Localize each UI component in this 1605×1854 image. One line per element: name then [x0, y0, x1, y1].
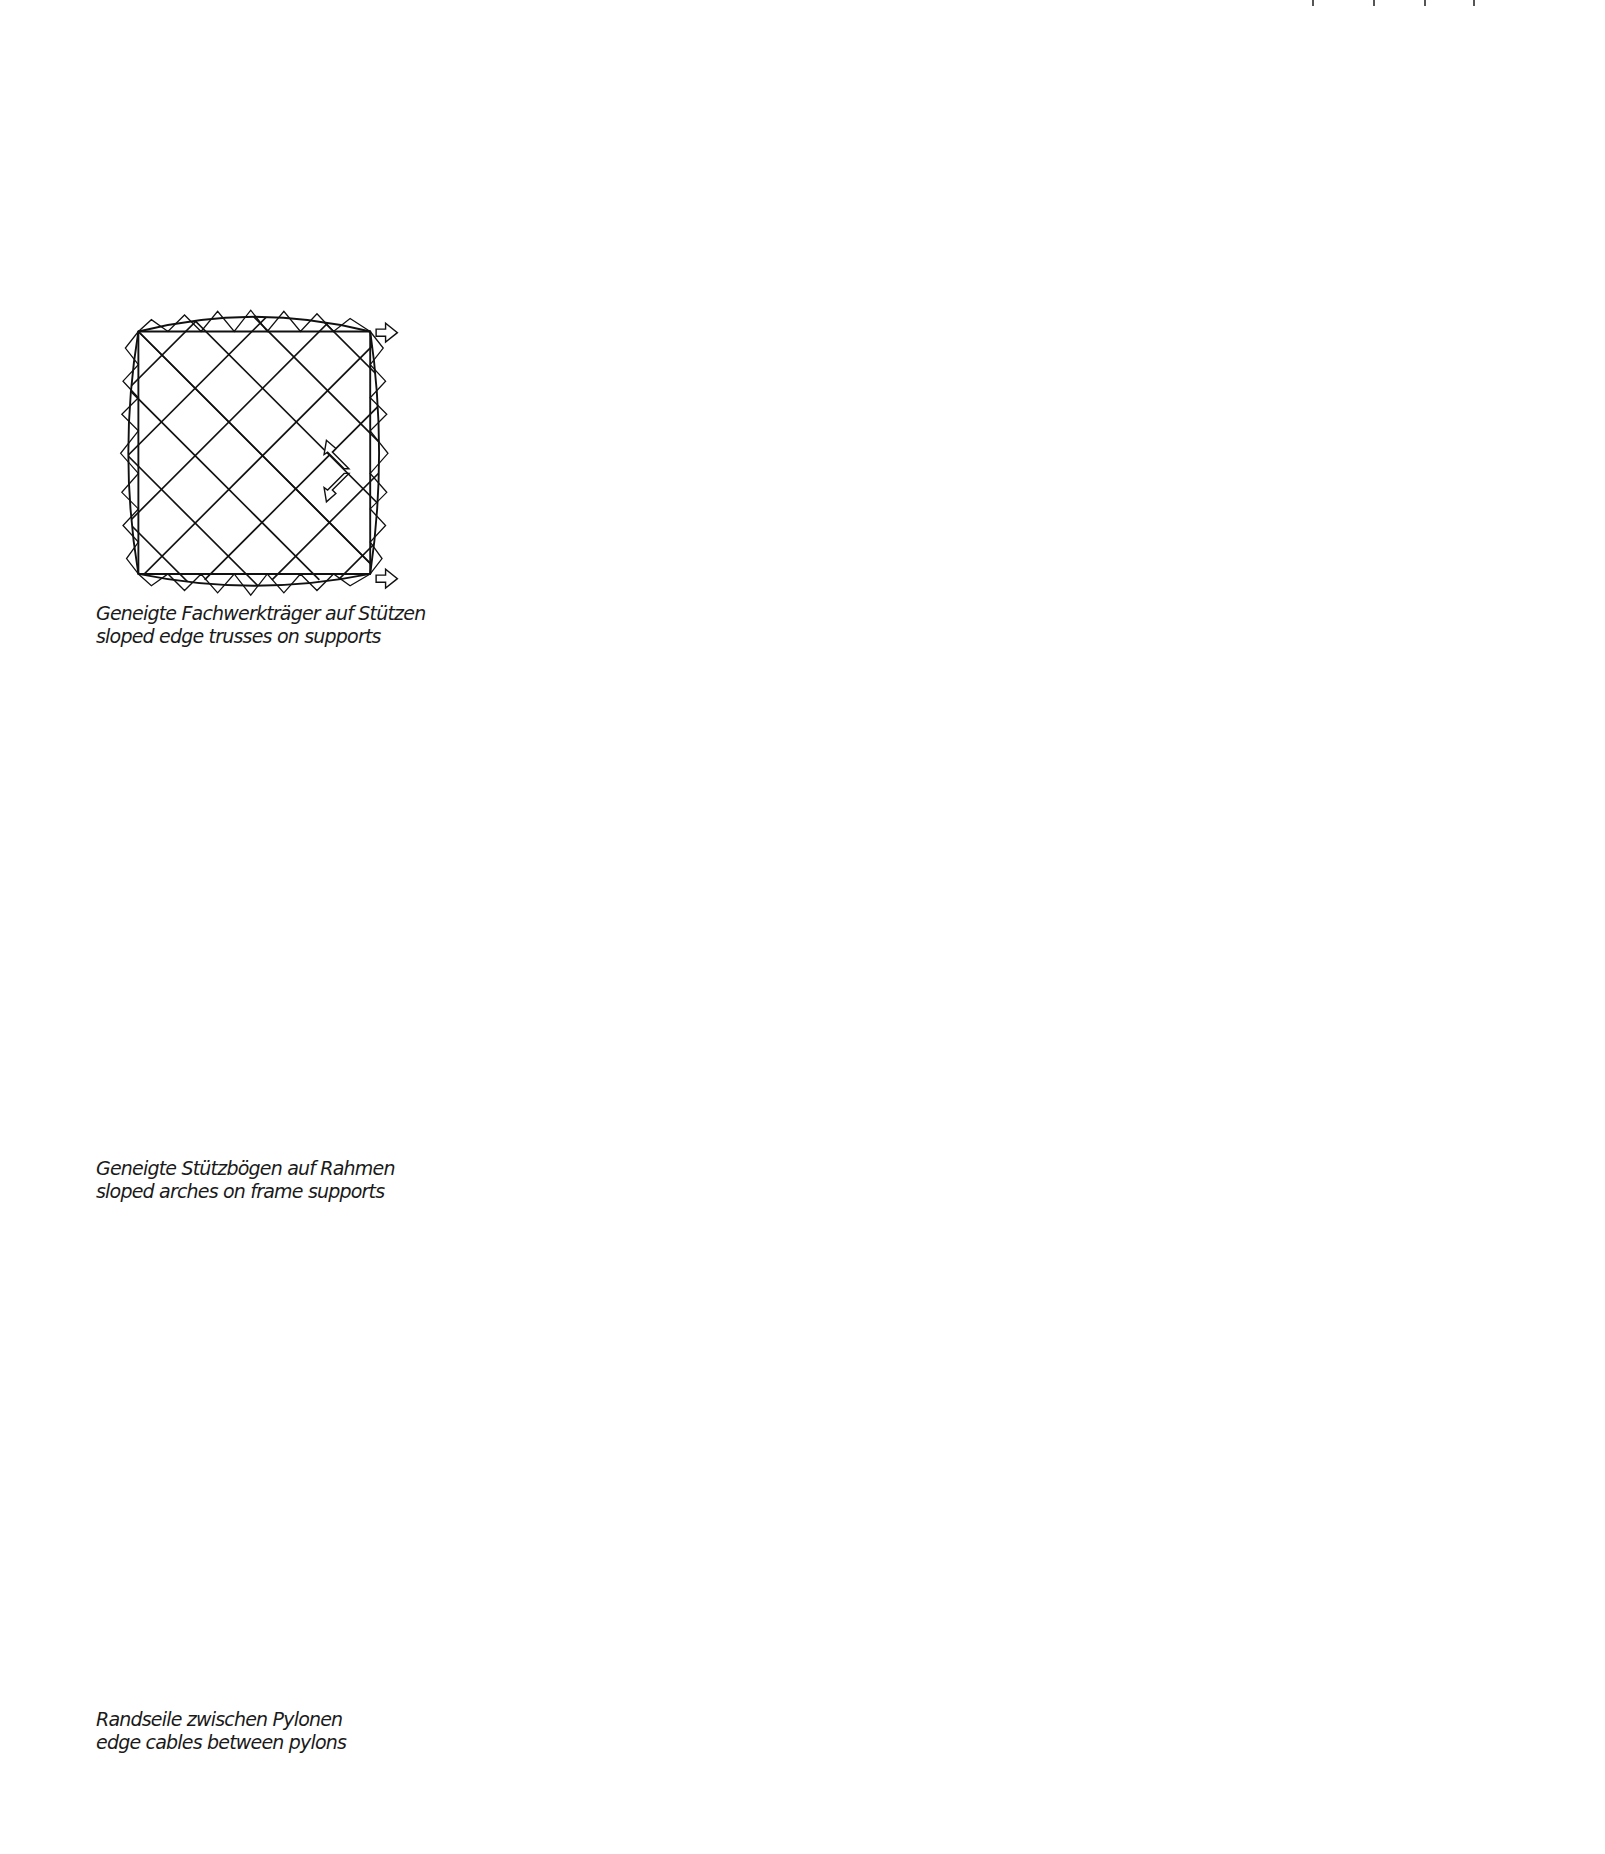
caption-ring-arches: Geneigte Stützbögen auf Rahmen sloped ar… [96, 1157, 395, 1203]
caption-de: Geneigte Fachwerkträger auf Stützen [96, 602, 425, 625]
plan-edge-trusses [71, 261, 473, 596]
caption-en: sloped arches on frame supports [96, 1180, 395, 1203]
caption-edge-trusses: Geneigte Fachwerkträger auf Stützen slop… [96, 602, 425, 648]
caption-en: edge cables between pylons [96, 1731, 346, 1754]
drawing-canvas [0, 0, 1605, 1854]
caption-en: sloped edge trusses on supports [96, 625, 425, 648]
caption-de: Randseile zwischen Pylonen [96, 1708, 346, 1731]
caption-edge-cables: Randseile zwischen Pylonen edge cables b… [96, 1708, 346, 1754]
caption-de: Geneigte Stützbögen auf Rahmen [96, 1157, 395, 1180]
